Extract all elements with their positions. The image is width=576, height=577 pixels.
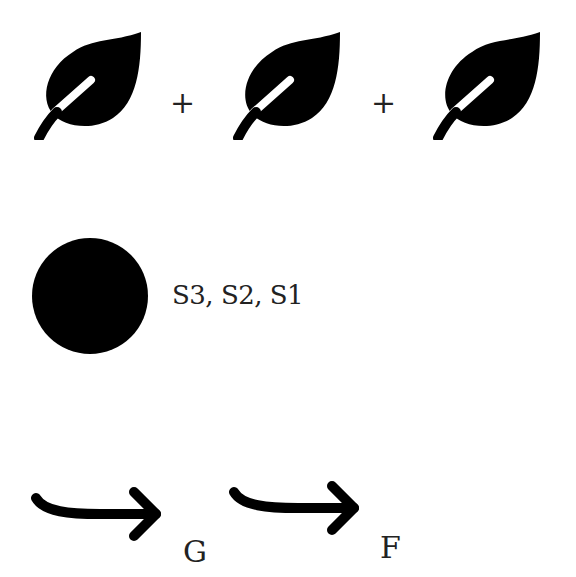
step-label-g: G xyxy=(183,534,207,569)
curved-arrow-right-icon xyxy=(30,484,165,544)
plus-operator: + xyxy=(170,88,195,118)
filled-circle-icon xyxy=(32,238,148,354)
plus-operator: + xyxy=(371,88,396,118)
leaf-icon xyxy=(432,28,544,140)
leaf-icon xyxy=(232,28,344,140)
step-label-f: F xyxy=(380,530,401,565)
stage-label: S3, S2, S1 xyxy=(172,280,303,310)
leaf-icon xyxy=(33,28,145,140)
curved-arrow-right-icon xyxy=(228,478,363,538)
